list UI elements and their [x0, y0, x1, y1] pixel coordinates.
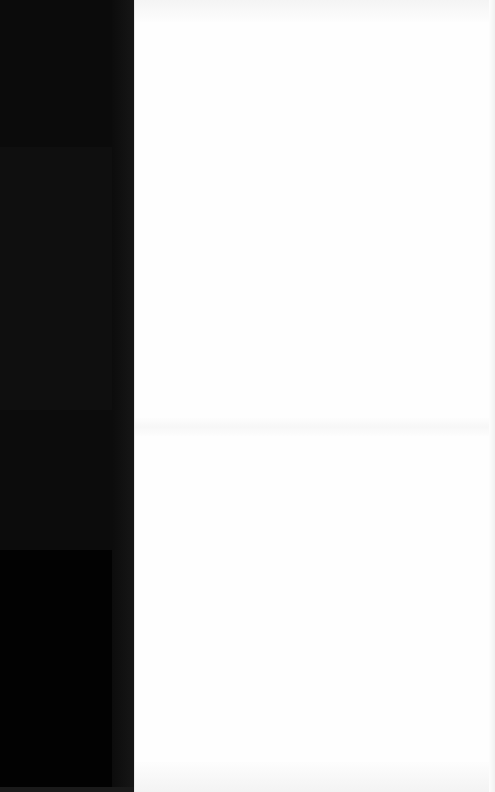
left-panel [0, 0, 134, 792]
sidebar-edge [112, 0, 134, 787]
right-edge [489, 0, 495, 792]
screen [0, 0, 495, 792]
top-strip [135, 0, 495, 22]
sidebar-band [0, 0, 112, 147]
sidebar-bottom-strip [0, 787, 134, 792]
bottom-area [135, 762, 495, 792]
sidebar-band [0, 410, 112, 550]
mid-divider [135, 418, 495, 436]
sidebar-band [0, 550, 112, 787]
sidebar-band [0, 147, 112, 410]
content-area [134, 0, 495, 792]
